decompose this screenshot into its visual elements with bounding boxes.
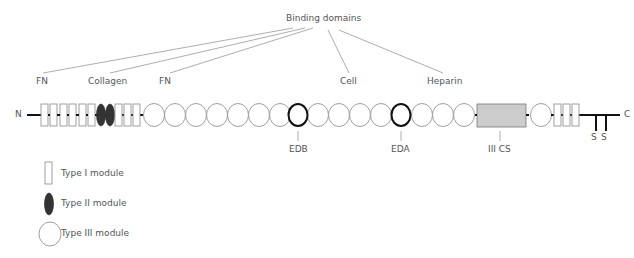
type2-group [97,104,115,126]
label-cell: Cell [340,77,357,86]
type3-module [270,104,291,127]
leader-collagen [110,28,305,73]
label-fn-right: FN [159,77,171,86]
legend-type1-icon [45,162,52,184]
type3-module [531,104,552,127]
type1-module [50,104,57,126]
n-terminus-label: N [15,110,22,119]
type1-group-mid [115,104,140,126]
eda-module [392,104,411,126]
iiics-label: III CS [488,145,511,154]
edb-label: EDB [289,145,308,154]
type1-module [41,104,48,126]
iiics-region [477,104,526,127]
fibronectin-domain-diagram: Binding domains FN Collagen FN Cell Hepa… [0,0,634,258]
label-fn-left: FN [36,77,48,86]
binding-domains-title: Binding domains [286,14,361,23]
type3-module [433,104,454,127]
type3-module [228,104,249,127]
type1-module [554,104,561,126]
leader-cell [328,30,349,73]
binding-leader-lines [43,28,443,73]
legend-type2-label: Type II module [61,199,126,208]
legend-shapes [39,162,61,246]
type1-module [60,104,67,126]
type1-module [133,104,140,126]
type1-module [79,104,86,126]
diagram-canvas [0,0,634,258]
type2-module [106,104,115,126]
type2-module [97,104,106,126]
type3-module [329,104,350,127]
label-heparin: Heparin [427,77,462,86]
leader-fn-right [170,28,313,73]
leader-fn-left [43,28,293,73]
type3-module [350,104,371,127]
type3-module [144,104,165,127]
splice-ticks [298,131,500,141]
label-collagen: Collagen [88,77,127,86]
edb-module [289,104,308,126]
legend-type1-label: Type I module [61,169,124,178]
legend-type3-icon [39,222,61,246]
disulfide-label-1: S [591,133,597,142]
type3-module [165,104,186,127]
type3-module [207,104,228,127]
type1-group-c [554,104,579,126]
type3-module [371,104,392,127]
type3-module [186,104,207,127]
type1-module [115,104,122,126]
eda-label: EDA [391,145,410,154]
type1-module [88,104,95,126]
type3-module [412,104,433,127]
type3-module [249,104,270,127]
type1-module [69,104,76,126]
disulfide-label-2: S [601,133,607,142]
leader-heparin [339,30,443,73]
type3-module [308,104,329,127]
type1-module [572,104,579,126]
type3-module [454,104,475,127]
legend-type3-label: Type III module [61,229,129,238]
type1-module [124,104,131,126]
legend-type2-icon [45,193,54,215]
c-terminus-label: C [624,110,630,119]
type1-module [563,104,570,126]
